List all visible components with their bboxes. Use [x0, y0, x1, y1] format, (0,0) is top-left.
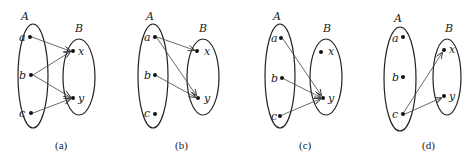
set-b-ellipse: [187, 39, 219, 115]
set-b-ellipse: [310, 39, 342, 115]
element-a-dot: [153, 35, 157, 39]
element-x-dot: [195, 49, 199, 53]
element-c-label: c: [271, 110, 277, 123]
element-b-label: b: [19, 69, 26, 82]
element-b-dot: [280, 76, 284, 80]
element-c-dot: [278, 114, 282, 118]
element-b-label: b: [271, 72, 278, 85]
set-b-ellipse: [433, 39, 461, 115]
element-y-label: y: [203, 92, 211, 105]
set-a-label: A: [393, 12, 402, 25]
element-a-label: a: [144, 31, 151, 44]
set-a-ellipse: [384, 27, 416, 131]
arrow-c-to-y: [33, 99, 70, 113]
element-y-dot: [71, 96, 75, 100]
set-a-label: A: [272, 10, 281, 23]
element-a-dot: [401, 35, 405, 39]
element-b-label: b: [392, 71, 399, 84]
arrow-c-to-y: [282, 99, 320, 115]
element-x-label: x: [78, 45, 85, 58]
element-c-label: c: [392, 108, 398, 121]
arrow-a-to-x: [157, 37, 194, 50]
arrow-a-to-x: [32, 37, 70, 51]
element-y-dot: [442, 94, 446, 98]
element-b-dot: [29, 73, 33, 77]
element-a-label: a: [271, 32, 278, 45]
arrow-b-to-y: [33, 75, 70, 97]
set-b-label: B: [198, 22, 207, 35]
element-c-dot: [401, 112, 405, 116]
element-c-label: c: [19, 107, 25, 120]
element-a-dot: [28, 35, 32, 39]
element-x-dot: [71, 49, 75, 53]
mapping-diagrams: A B a b c x y (a) A B a b c x y: [0, 0, 471, 166]
set-a-label: A: [20, 10, 29, 23]
set-b-label: B: [322, 22, 331, 35]
element-y-label: y: [448, 90, 456, 103]
arrow-b-to-y: [284, 79, 320, 97]
element-a-label: a: [19, 31, 26, 44]
element-a-dot: [279, 36, 283, 40]
set-a-label: A: [145, 10, 154, 23]
diagram-c: A B a b c x y (c): [265, 10, 342, 152]
element-b-dot: [153, 73, 157, 77]
caption-a: (a): [55, 139, 68, 152]
diagram-d: A B a b c x y (d): [384, 12, 461, 152]
element-x-label: x: [449, 43, 456, 56]
arrow-b-to-y: [157, 76, 195, 97]
element-x-label: x: [328, 45, 335, 58]
element-x-label: x: [204, 45, 211, 58]
element-y-dot: [196, 96, 200, 100]
element-x-dot: [442, 48, 446, 52]
element-y-label: y: [327, 92, 335, 105]
element-x-dot: [319, 50, 323, 54]
caption-c: (c): [299, 139, 312, 152]
caption-b: (b): [175, 139, 188, 152]
element-b-dot: [401, 75, 405, 79]
element-a-label: a: [392, 32, 399, 45]
arrow-c-to-y: [405, 98, 441, 114]
element-y-dot: [321, 96, 325, 100]
set-b-label: B: [444, 22, 453, 35]
set-b-label: B: [74, 22, 83, 35]
element-c-dot: [153, 112, 157, 116]
element-c-label: c: [144, 107, 150, 120]
element-y-label: y: [77, 92, 85, 105]
element-c-dot: [29, 111, 33, 115]
diagram-b: A B a b c x y (b): [138, 10, 219, 152]
caption-d: (d): [422, 139, 435, 152]
diagram-a: A B a b c x y (a): [18, 10, 95, 152]
element-b-label: b: [144, 69, 151, 82]
